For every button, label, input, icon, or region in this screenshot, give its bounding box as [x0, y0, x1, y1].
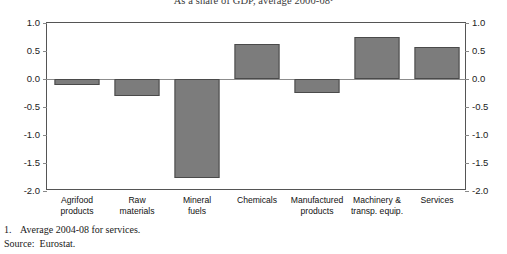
- bars-layer: AgrifoodproductsRawmaterialsMineralfuels…: [47, 23, 465, 189]
- bar[interactable]: [355, 37, 400, 79]
- footnote-text: Average 2004-08 for services.: [20, 224, 140, 235]
- y-axis-label-right: -0.5: [472, 102, 488, 112]
- bar[interactable]: [55, 79, 100, 85]
- y-axis-label-right: 0.0: [472, 74, 485, 84]
- y-tick-left: [43, 191, 47, 192]
- y-tick-left: [43, 135, 47, 136]
- chart-title: As a share of GDP, average 2000-08¹: [0, 0, 507, 6]
- y-axis-label-left: -1.0: [24, 130, 40, 140]
- bar-group: Mineralfuels: [167, 23, 227, 189]
- chart-figure: As a share of GDP, average 2000-08¹ Agri…: [0, 0, 507, 254]
- y-axis-label-right: 0.5: [472, 46, 485, 56]
- x-axis-category-line: Services: [400, 195, 474, 206]
- plot-area: AgrifoodproductsRawmaterialsMineralfuels…: [46, 22, 466, 190]
- y-axis-label-right: -1.5: [472, 158, 488, 168]
- y-axis-label-left: 0.0: [27, 74, 40, 84]
- y-axis-label-left: 0.5: [27, 46, 40, 56]
- footnotes: 1.Average 2004-08 for services. Source: …: [4, 223, 444, 251]
- y-tick-left: [43, 79, 47, 80]
- bar-group: Machinery &transp. equip.: [347, 23, 407, 189]
- source-row: Source: Eurostat.: [4, 237, 444, 251]
- bar-group: Manufacturedproducts: [287, 23, 347, 189]
- bar-group: Agrifoodproducts: [47, 23, 107, 189]
- source-label: Source:: [4, 238, 35, 249]
- bar[interactable]: [175, 79, 220, 178]
- y-axis-label-right: -1.0: [472, 130, 488, 140]
- x-axis-category-line: fuels: [160, 206, 234, 217]
- y-tick-right: [465, 107, 469, 108]
- y-axis-label-left: -1.5: [24, 158, 40, 168]
- y-tick-right: [465, 163, 469, 164]
- y-tick-right: [465, 79, 469, 80]
- y-tick-left: [43, 51, 47, 52]
- y-tick-left: [43, 163, 47, 164]
- y-tick-left: [43, 107, 47, 108]
- y-axis-label-left: -2.0: [24, 186, 40, 196]
- footnote-note: 1.Average 2004-08 for services.: [4, 223, 444, 237]
- y-tick-left: [43, 23, 47, 24]
- y-tick-right: [465, 191, 469, 192]
- y-tick-right: [465, 23, 469, 24]
- bar[interactable]: [115, 79, 160, 96]
- y-axis-label-left: -0.5: [24, 102, 40, 112]
- bar[interactable]: [235, 44, 280, 79]
- source-text: Eurostat.: [40, 238, 76, 249]
- bar[interactable]: [295, 79, 340, 93]
- y-axis-label-left: 1.0: [27, 18, 40, 28]
- y-tick-right: [465, 51, 469, 52]
- y-tick-right: [465, 135, 469, 136]
- y-axis-label-right: 1.0: [472, 18, 485, 28]
- bar-group: Chemicals: [227, 23, 287, 189]
- bar-group: Services: [407, 23, 467, 189]
- bar-group: Rawmaterials: [107, 23, 167, 189]
- footnote-marker: 1.: [4, 223, 20, 237]
- x-axis-category-line: transp. equip.: [340, 206, 414, 217]
- bar[interactable]: [415, 47, 460, 79]
- y-axis-label-right: -2.0: [472, 186, 488, 196]
- x-axis-category-label: Services: [400, 195, 474, 206]
